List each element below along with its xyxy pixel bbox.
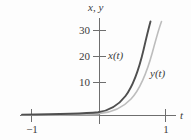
- y-tick-label-10: 10: [70, 77, 90, 88]
- curve-y-of-t: [22, 22, 162, 116]
- x-axis-label: t: [180, 110, 183, 121]
- y-tick-label-20: 20: [70, 51, 90, 62]
- curve-label-x-of-t: x(t): [108, 50, 123, 61]
- curve-label-y-of-t: y(t): [150, 68, 165, 79]
- y-axis-label: x, y: [88, 2, 103, 13]
- x-tick-label-1: 1: [156, 124, 176, 135]
- y-tick-label-30: 30: [70, 25, 90, 36]
- exponential-growth-figure: x, y t 30 20 10 −1 1 x(t) y(t): [0, 0, 191, 140]
- x-tick-label-minus-1: −1: [22, 124, 42, 135]
